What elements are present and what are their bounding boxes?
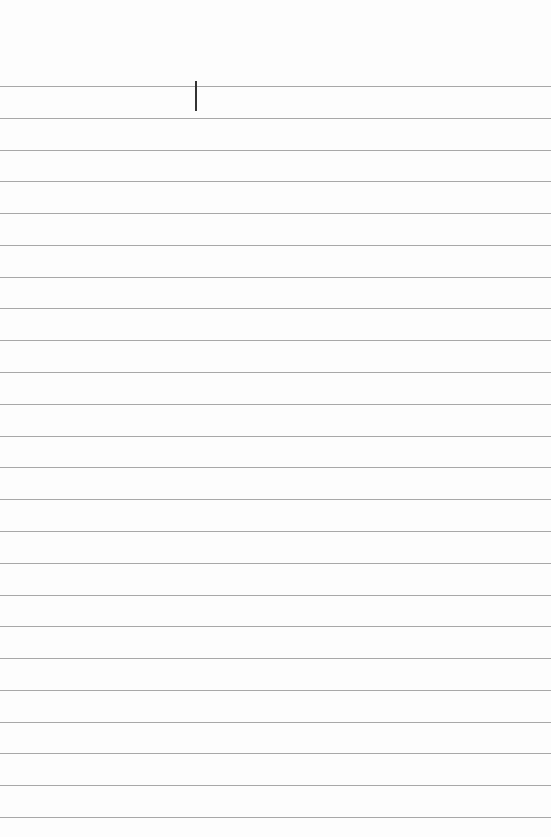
text-input-area[interactable] [0, 0, 551, 837]
lined-notepad[interactable] [0, 0, 551, 837]
text-cursor [195, 81, 197, 111]
